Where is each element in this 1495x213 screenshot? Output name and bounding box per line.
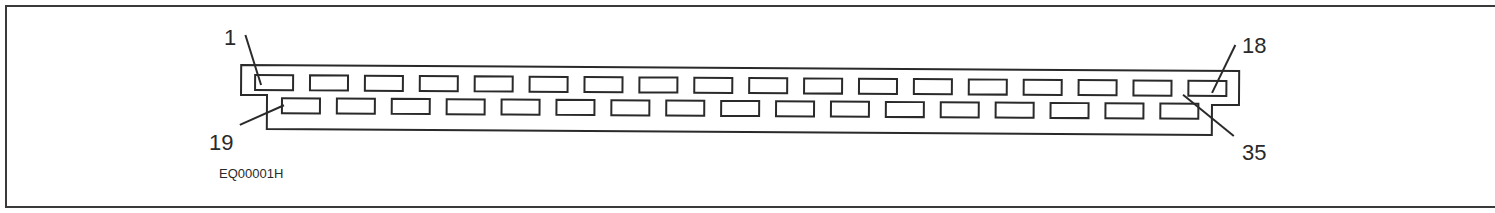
callout-label-1: 1 bbox=[224, 25, 236, 50]
callout-leader-35 bbox=[1183, 95, 1234, 136]
callout-leader-1 bbox=[245, 35, 261, 85]
pin-cavity-8 bbox=[639, 77, 677, 92]
top-row-pins bbox=[255, 75, 1226, 96]
pin-cavity-35 bbox=[1160, 104, 1198, 119]
pin-cavity-3 bbox=[365, 76, 403, 91]
pin-cavity-27 bbox=[721, 101, 759, 116]
pin-cavity-5 bbox=[475, 76, 513, 91]
pin-cavity-28 bbox=[776, 101, 814, 116]
pin-cavity-17 bbox=[1133, 80, 1171, 95]
callout-leader-18 bbox=[1212, 45, 1235, 93]
callout-leader-19 bbox=[240, 105, 284, 125]
callout-label-18: 18 bbox=[1242, 33, 1266, 58]
pin-cavity-12 bbox=[859, 79, 897, 94]
callout-label-35: 35 bbox=[1242, 140, 1266, 165]
pin-cavity-13 bbox=[914, 79, 952, 94]
pin-cavity-2 bbox=[310, 75, 348, 90]
pin-cavity-26 bbox=[666, 101, 704, 116]
bottom-row-pins bbox=[282, 98, 1198, 119]
pin-cavity-32 bbox=[996, 103, 1034, 118]
pin-cavity-29 bbox=[831, 102, 869, 117]
pin-cavity-18 bbox=[1188, 81, 1226, 96]
pin-cavity-19 bbox=[282, 98, 320, 113]
pin-cavity-31 bbox=[941, 102, 979, 117]
pin-cavity-21 bbox=[392, 99, 430, 114]
pin-cavity-33 bbox=[1050, 103, 1088, 118]
pin-cavity-10 bbox=[749, 78, 787, 93]
pin-cavity-34 bbox=[1105, 103, 1143, 118]
pin-cavity-20 bbox=[337, 99, 375, 114]
pin-cavity-24 bbox=[556, 100, 594, 115]
pin-cavity-22 bbox=[447, 99, 485, 114]
pin-cavity-6 bbox=[530, 77, 568, 92]
figure-id-label: EQ00001H bbox=[219, 166, 283, 181]
pin-cavity-15 bbox=[1024, 80, 1062, 95]
pin-cavity-30 bbox=[886, 102, 924, 117]
pin-cavity-23 bbox=[502, 100, 540, 115]
pin-cavity-4 bbox=[420, 76, 458, 91]
pin-cavity-7 bbox=[584, 77, 622, 92]
callout-label-19: 19 bbox=[209, 130, 233, 155]
pin-cavity-25 bbox=[611, 100, 649, 115]
pin-cavity-16 bbox=[1079, 80, 1117, 95]
pin-cavity-11 bbox=[804, 78, 842, 93]
pin-cavity-14 bbox=[969, 79, 1007, 94]
pin-cavity-9 bbox=[694, 78, 732, 93]
